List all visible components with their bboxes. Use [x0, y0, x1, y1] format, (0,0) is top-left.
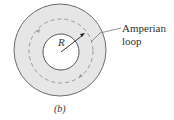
radius-label: R	[58, 37, 65, 48]
amperian-loop-label-line2: loop	[122, 36, 142, 47]
diagram-canvas	[0, 0, 174, 120]
amperian-loop-label: Amperian	[122, 23, 166, 34]
callout-leader-line	[100, 28, 121, 33]
panel-label: (b)	[54, 103, 66, 114]
